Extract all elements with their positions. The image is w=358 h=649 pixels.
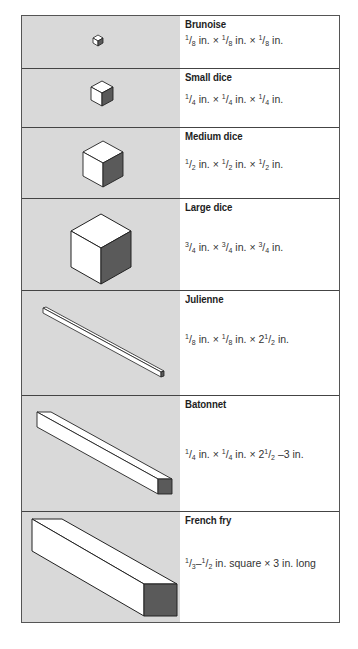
- description-cell: Brunoise 1/8 in. × 1/8 in. × 1/8 in.: [180, 16, 339, 68]
- description-cell: Medium dice 1/2 in. × 1/2 in. × 1/2 in.: [180, 128, 339, 198]
- table-row-large-dice: Large dice 3/4 in. × 3/4 in. × 3/4 in.: [22, 198, 339, 290]
- knife-cuts-table: Brunoise 1/8 in. × 1/8 in. × 1/8 in. Sma…: [21, 15, 340, 623]
- medium-cube-icon: [22, 128, 180, 199]
- cut-size: 3/4 in. × 3/4 in. × 3/4 in.: [185, 241, 283, 253]
- cut-name: French fry: [185, 514, 231, 526]
- table-row-medium-dice: Medium dice 1/2 in. × 1/2 in. × 1/2 in.: [22, 127, 339, 198]
- illustration-cell: [22, 128, 180, 198]
- cut-size: 1/4 in. × 1/4 in. × 21/2 –3 in.: [185, 448, 304, 460]
- description-cell: French fry 1/3–1/2 in. square × 3 in. lo…: [180, 512, 339, 622]
- cut-name: Small dice: [185, 71, 232, 83]
- illustration-cell: [22, 199, 180, 290]
- description-cell: Large dice 3/4 in. × 3/4 in. × 3/4 in.: [180, 199, 339, 290]
- illustration-cell: [22, 512, 180, 622]
- cut-name: Medium dice: [185, 130, 243, 142]
- cut-name: Brunoise: [185, 18, 226, 30]
- cut-size: 1/8 in. × 1/8 in. × 1/8 in.: [185, 34, 283, 46]
- cut-name: Large dice: [185, 201, 232, 213]
- cut-size: 1/2 in. × 1/2 in. × 1/2 in.: [185, 158, 283, 170]
- cut-name: Julienne: [185, 293, 223, 305]
- illustration-cell: [22, 69, 180, 127]
- table-row-small-dice: Small dice 1/4 in. × 1/4 in. × 1/4 in.: [22, 68, 339, 127]
- cut-size: 1/3–1/2 in. square × 3 in. long: [185, 557, 316, 569]
- thin-stick-icon: [22, 291, 180, 396]
- cut-size: 1/8 in. × 1/8 in. × 21/2 in.: [185, 333, 289, 345]
- illustration-cell: [22, 16, 180, 68]
- small-cube-icon: [22, 69, 180, 128]
- description-cell: Batonnet 1/4 in. × 1/4 in. × 21/2 –3 in.: [180, 396, 339, 511]
- tiny-cube-icon: [22, 16, 180, 68]
- medium-stick-icon: [22, 396, 180, 512]
- cut-size: 1/4 in. × 1/4 in. × 1/4 in.: [185, 93, 283, 105]
- table-row-julienne: Julienne 1/8 in. × 1/8 in. × 21/2 in.: [22, 290, 339, 395]
- description-cell: Julienne 1/8 in. × 1/8 in. × 21/2 in.: [180, 291, 339, 395]
- table-row-batonnet: Batonnet 1/4 in. × 1/4 in. × 21/2 –3 in.: [22, 395, 339, 511]
- large-cube-icon: [22, 199, 180, 291]
- table-row-brunoise: Brunoise 1/8 in. × 1/8 in. × 1/8 in.: [22, 16, 339, 68]
- cut-name: Batonnet: [185, 398, 226, 410]
- illustration-cell: [22, 396, 180, 511]
- thick-stick-icon: [22, 512, 180, 623]
- description-cell: Small dice 1/4 in. × 1/4 in. × 1/4 in.: [180, 69, 339, 127]
- illustration-cell: [22, 291, 180, 395]
- table-row-french-fry: French fry 1/3–1/2 in. square × 3 in. lo…: [22, 511, 339, 622]
